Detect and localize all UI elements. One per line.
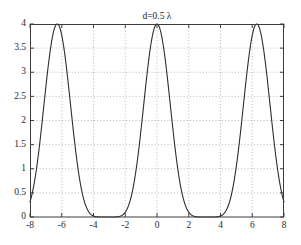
y-tick-label: 2.5 [14, 91, 26, 101]
x-tick-label: -4 [90, 220, 98, 230]
x-axis-tick-labels: -8-6-4-202468 [26, 220, 287, 230]
x-tick-label: 8 [282, 220, 287, 230]
y-tick-label: 1.5 [14, 139, 26, 149]
x-tick-label: 6 [250, 220, 255, 230]
y-tick-label: 1 [21, 163, 26, 173]
x-tick-label: 2 [186, 220, 191, 230]
y-tick-label: 2 [21, 115, 26, 125]
x-tick-label: -6 [58, 220, 66, 230]
vertical-gridlines [62, 24, 253, 217]
y-tick-label: 0.5 [14, 187, 26, 197]
x-tick-label: -2 [121, 220, 129, 230]
figure-container: d=0.5 λ -8-6-4-202468 00.511.522.533.54 [0, 0, 301, 245]
y-tick-label: 3.5 [14, 42, 26, 52]
chart-canvas: d=0.5 λ -8-6-4-202468 00.511.522.533.54 [0, 0, 301, 245]
y-axis-tick-labels: 00.511.522.533.54 [14, 18, 26, 221]
x-tick-label: -8 [26, 220, 34, 230]
x-tick-label: 4 [218, 220, 223, 230]
chart-title: d=0.5 λ [143, 11, 172, 21]
y-tick-label: 4 [21, 18, 26, 28]
x-tick-label: 0 [155, 220, 160, 230]
y-tick-label: 3 [21, 66, 26, 76]
y-tick-label: 0 [21, 211, 26, 221]
